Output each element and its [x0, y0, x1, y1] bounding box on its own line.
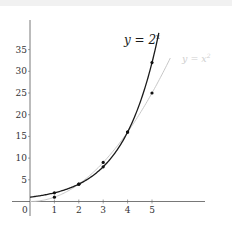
x-tick-label: 3: [100, 205, 106, 215]
origin-label: 0: [22, 205, 28, 215]
data-point: [53, 196, 56, 199]
data-points: [53, 61, 154, 199]
y-tick-label: 5: [21, 175, 27, 185]
data-point: [102, 161, 105, 164]
data-point: [77, 183, 80, 186]
data-point: [150, 61, 153, 64]
y-tick-label: 15: [16, 131, 28, 141]
x-tick-label: 4: [125, 205, 131, 215]
y-tick-label: 30: [16, 66, 28, 76]
y-tick-label: 10: [16, 153, 28, 163]
x-tick-label: 5: [149, 205, 155, 215]
y-tick-label: 20: [16, 110, 28, 120]
chart: 123455101520253035 0 y = 2x y = x2: [0, 0, 232, 230]
y-tick-label: 35: [16, 45, 28, 55]
data-point: [150, 91, 153, 94]
curves: [30, 33, 170, 202]
data-point: [102, 165, 105, 168]
curve-label-2x: y = 2x: [123, 33, 160, 47]
x-tick-label: 2: [76, 205, 82, 215]
curve-label-x2: y = x2: [181, 52, 211, 64]
curve-x-squared: [30, 58, 170, 201]
data-point: [126, 130, 129, 133]
x-tick-label: 1: [52, 205, 58, 215]
ticks: 123455101520253035: [16, 45, 156, 215]
y-tick-label: 25: [16, 88, 28, 98]
data-point: [53, 191, 56, 194]
